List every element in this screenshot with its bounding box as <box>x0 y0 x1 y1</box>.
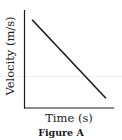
y-axis-label-container: Velocity (m/s) <box>2 10 18 102</box>
figure: Velocity (m/s) Time (s) Figure A <box>0 0 122 140</box>
x-axis-label: Time (s) <box>24 111 114 125</box>
y-axis-label: Velocity (m/s) <box>3 16 17 95</box>
velocity-line <box>32 20 106 98</box>
figure-caption: Figure A <box>0 127 122 138</box>
